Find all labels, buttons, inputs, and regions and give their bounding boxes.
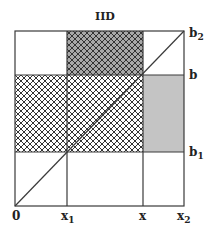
label-b: b <box>189 68 197 82</box>
region-middle-right <box>143 75 184 152</box>
label-b1: b1 <box>189 145 204 161</box>
label-x1: x1 <box>61 209 74 225</box>
diagram-title: IID <box>95 10 115 23</box>
diagram: IID b2 b b1 0 x1 x x2 <box>0 0 211 235</box>
label-0: 0 <box>12 209 20 223</box>
label-x: x <box>139 209 147 223</box>
label-b2: b2 <box>189 26 204 42</box>
region-top-middle <box>67 31 143 75</box>
label-x2: x2 <box>177 209 190 225</box>
region-middle-left <box>15 75 67 152</box>
